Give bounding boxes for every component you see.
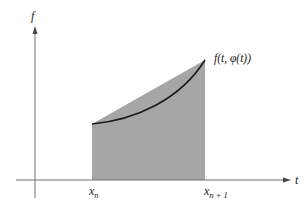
curve-label: f(t, φ(t)) (214, 52, 251, 65)
y-axis-label: f (31, 9, 36, 23)
x-axis-arrow-icon (283, 178, 291, 183)
x-n-plus-1-sub: n + 1 (209, 190, 228, 200)
integral-diagram: f t f(t, φ(t)) xn xn + 1 (0, 0, 305, 202)
x-n-label: xn (88, 184, 99, 200)
x-n-sub: n (94, 190, 98, 200)
shaded-trapezoid-region (92, 60, 205, 180)
x-n-plus-1-label: xn + 1 (203, 184, 228, 200)
x-axis-label: t (295, 173, 299, 187)
y-axis-arrow-icon (33, 26, 38, 34)
